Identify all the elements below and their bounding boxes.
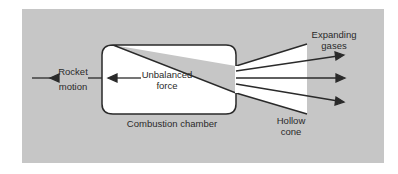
label-hollow-cone-line1: Hollow (271, 115, 311, 126)
label-hollow-cone-line2: cone (271, 126, 311, 137)
label-expanding-gases: Expanding gases (310, 29, 358, 51)
label-rocket-motion-line2: motion (56, 81, 90, 92)
label-unbalanced-force: Unbalanced force (138, 69, 196, 91)
label-unbalanced-force-line1: Unbalanced (138, 69, 196, 80)
label-rocket-motion: Rocket motion (56, 66, 90, 92)
label-combustion-chamber: Combustion chamber (122, 118, 222, 129)
label-unbalanced-force-line2: force (138, 80, 196, 91)
label-hollow-cone: Hollow cone (271, 115, 311, 137)
label-rocket-motion-line1: Rocket (56, 66, 90, 77)
label-expanding-gases-line1: Expanding (310, 29, 358, 40)
label-expanding-gases-line2: gases (310, 40, 358, 51)
